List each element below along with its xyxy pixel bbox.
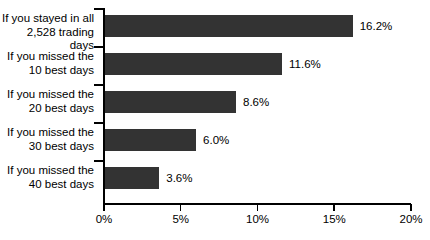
value-axis-tick-label: 15% bbox=[323, 212, 346, 226]
value-axis-tick-label: 0% bbox=[96, 212, 113, 226]
bar bbox=[104, 91, 236, 113]
value-axis-tick bbox=[103, 204, 105, 211]
category-axis-line bbox=[103, 8, 105, 204]
bar-value-label: 6.0% bbox=[203, 133, 229, 147]
bar-value-label: 3.6% bbox=[166, 171, 192, 185]
bar bbox=[104, 53, 282, 75]
chart-row: If you missed the 20 best days 8.6% bbox=[0, 84, 430, 122]
bar-value-label: 16.2% bbox=[360, 19, 393, 33]
bar bbox=[104, 15, 353, 37]
bar bbox=[104, 167, 159, 189]
category-label: If you missed the 20 best days bbox=[0, 88, 94, 115]
category-label: If you missed the 40 best days bbox=[0, 164, 94, 191]
category-axis-tick bbox=[94, 46, 103, 48]
bar-value-label: 8.6% bbox=[243, 95, 269, 109]
category-axis-tick bbox=[94, 84, 103, 86]
category-axis-tick bbox=[94, 160, 103, 162]
value-axis-tick-label: 10% bbox=[246, 212, 269, 226]
bar-value-label: 11.6% bbox=[289, 57, 321, 71]
chart-row: If you missed the 10 best days 11.6% bbox=[0, 46, 430, 84]
chart-row: If you stayed in all 2,528 trading days … bbox=[0, 8, 430, 46]
value-axis-tick-label: 20% bbox=[399, 212, 422, 226]
bar bbox=[104, 129, 196, 151]
category-axis-tick bbox=[94, 122, 103, 124]
value-axis-tick bbox=[333, 204, 335, 211]
category-label: If you missed the 30 best days bbox=[0, 126, 94, 153]
category-label: If you missed the 10 best days bbox=[0, 50, 94, 77]
value-axis-tick bbox=[180, 204, 182, 211]
chart-row: If you missed the 30 best days 6.0% bbox=[0, 122, 430, 160]
bar-chart: If you stayed in all 2,528 trading days … bbox=[0, 0, 430, 240]
chart-row: If you missed the 40 best days 3.6% bbox=[0, 160, 430, 198]
category-axis-tick bbox=[94, 8, 103, 10]
value-axis-tick-label: 5% bbox=[172, 212, 189, 226]
value-axis-tick bbox=[410, 204, 412, 211]
value-axis-tick bbox=[257, 204, 259, 211]
